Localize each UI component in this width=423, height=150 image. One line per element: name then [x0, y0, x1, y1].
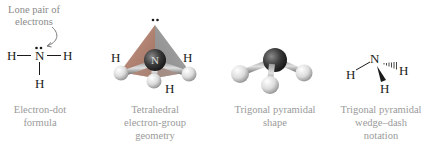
lone-pair-annotation: Lone pair of electrons [6, 4, 62, 28]
atom-n: N [370, 52, 379, 65]
atom-h-left: H [7, 49, 16, 62]
atom-n: N [151, 54, 159, 67]
atom-h-bottom: H [165, 82, 174, 95]
caption-tetrahedral: Tetrahedral electron-group geometry [105, 103, 205, 142]
atom-h-bottom: H [35, 77, 44, 90]
atom-n: N [35, 49, 44, 62]
caption-wedge-dash: Trigonal pyramidal wedge–dash notation [328, 103, 423, 142]
atom-h-bottom: H [380, 82, 389, 95]
atom-h-right: H [399, 64, 408, 77]
trigonal-pyramidal-model [231, 48, 313, 94]
atom-h-right: H [183, 51, 192, 64]
caption-electron-dot: Electron-dot formula [0, 103, 80, 129]
atom-h-right: H [63, 49, 72, 62]
atom-h-left: H [346, 68, 355, 81]
atom-h-left: H [111, 51, 120, 64]
caption-trigonal-shape: Trigonal pyramidal shape [222, 103, 328, 129]
